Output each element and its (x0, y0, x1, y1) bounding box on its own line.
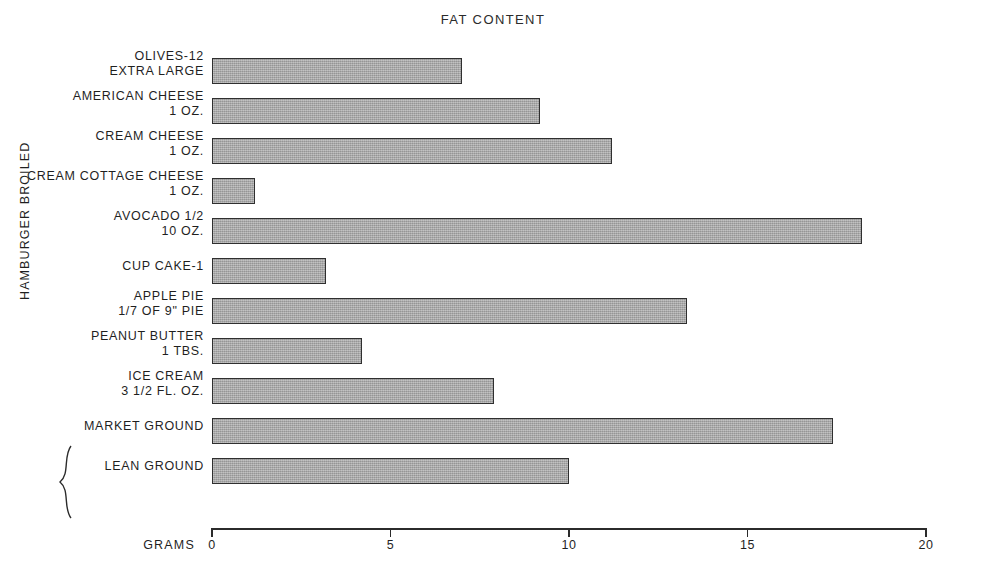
x-axis-tick-label: 0 (208, 538, 216, 552)
fat-content-chart: FAT CONTENT OLIVES-12EXTRA LARGEAMERICAN… (0, 0, 986, 568)
group-brace-icon (57, 444, 75, 520)
category-label: OLIVES-12EXTRA LARGE (0, 49, 204, 79)
category-label-line2: 1 OZ. (0, 104, 204, 119)
category-label: ICE CREAM3 1/2 FL. OZ. (0, 369, 204, 399)
chart-title: FAT CONTENT (0, 12, 986, 27)
bar-row (212, 298, 687, 324)
category-label: LEAN GROUND (0, 459, 204, 474)
x-axis-tick (390, 528, 392, 537)
bar-row (212, 178, 255, 204)
x-axis-tick (568, 528, 570, 537)
category-label-line1: LEAN GROUND (0, 459, 204, 474)
bar-row (212, 218, 862, 244)
x-axis-caption: GRAMS (90, 538, 195, 552)
category-label-line1: PEANUT BUTTER (0, 329, 204, 344)
category-label-line2: EXTRA LARGE (0, 64, 204, 79)
bar-row (212, 458, 569, 484)
bar-row (212, 258, 326, 284)
bar-row (212, 138, 612, 164)
category-label-line1: AMERICAN CHEESE (0, 89, 204, 104)
x-axis-tick-label: 5 (387, 538, 395, 552)
bar-row (212, 418, 833, 444)
category-label-line1: MARKET GROUND (0, 419, 204, 434)
category-label-line1: OLIVES-12 (0, 49, 204, 64)
bar (212, 418, 833, 444)
category-label-line2: 3 1/2 FL. OZ. (0, 384, 204, 399)
x-axis-tick-label: 20 (918, 538, 933, 552)
bar (212, 298, 687, 324)
category-label-line2: 1/7 OF 9" PIE (0, 304, 204, 319)
x-axis-tick (747, 528, 749, 537)
category-label-line2: 1 TBS. (0, 344, 204, 359)
bar (212, 338, 362, 364)
x-axis-tick (925, 528, 927, 537)
plot-area: OLIVES-12EXTRA LARGEAMERICAN CHEESE1 OZ.… (212, 50, 926, 528)
category-label: MARKET GROUND (0, 419, 204, 434)
category-label: PEANUT BUTTER1 TBS. (0, 329, 204, 359)
category-label: AMERICAN CHEESE1 OZ. (0, 89, 204, 119)
bar-row (212, 58, 462, 84)
bar (212, 178, 255, 204)
bar-row (212, 338, 362, 364)
bar (212, 218, 862, 244)
x-axis-tick (211, 528, 213, 537)
bar (212, 98, 540, 124)
bar-row (212, 378, 494, 404)
bar (212, 58, 462, 84)
x-axis-tick-label: 10 (561, 538, 576, 552)
bar-row (212, 98, 540, 124)
bar (212, 378, 494, 404)
category-label-line1: ICE CREAM (0, 369, 204, 384)
hamburger-group-label: HAMBURGER BROILED (18, 142, 32, 300)
x-axis-tick-label: 15 (740, 538, 755, 552)
bar (212, 258, 326, 284)
bar (212, 138, 612, 164)
bar (212, 458, 569, 484)
